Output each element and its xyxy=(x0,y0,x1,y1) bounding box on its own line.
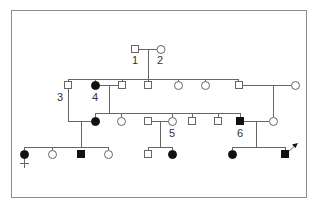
chart-frame xyxy=(12,11,307,198)
gen3-male-spouse xyxy=(145,118,152,125)
gen4-female xyxy=(105,151,113,159)
individual-3-male xyxy=(65,82,72,89)
individual-6-male-affected xyxy=(237,118,244,125)
gen2-female-spouse xyxy=(292,82,300,90)
gen3-male xyxy=(189,118,196,125)
gen3-female xyxy=(118,118,126,126)
label-3: 3 xyxy=(57,91,63,103)
gen2-male xyxy=(145,82,152,89)
label-1: 1 xyxy=(132,54,138,66)
gen4-male xyxy=(145,151,152,158)
individual-4-female-affected xyxy=(92,82,100,90)
gen3-female-spouse xyxy=(270,118,278,126)
gen4-male-affected-proband xyxy=(282,151,289,158)
label-6: 6 xyxy=(237,127,243,139)
gen4-female-affected xyxy=(169,151,177,159)
gen2-female xyxy=(202,82,210,90)
gen3-female-affected xyxy=(92,118,100,126)
label-5: 5 xyxy=(169,127,175,139)
gen4-male-affected xyxy=(78,151,85,158)
individual-2-female xyxy=(157,46,165,54)
gen2-female xyxy=(175,82,183,90)
gen2-male-spouse xyxy=(119,82,126,89)
gen4-female xyxy=(49,151,57,159)
gen4-female-affected xyxy=(229,151,237,159)
pedigree-chart: 1 2 3 4 5 6 xyxy=(0,0,315,204)
individual-1-male xyxy=(132,46,139,53)
label-4: 4 xyxy=(92,91,98,103)
label-2: 2 xyxy=(157,54,163,66)
gen2-male xyxy=(236,82,243,89)
individual-5-female xyxy=(169,118,177,126)
gen4-female-affected-deceased xyxy=(21,151,29,159)
pedigree-lines xyxy=(20,49,296,168)
gen3-male xyxy=(215,118,222,125)
